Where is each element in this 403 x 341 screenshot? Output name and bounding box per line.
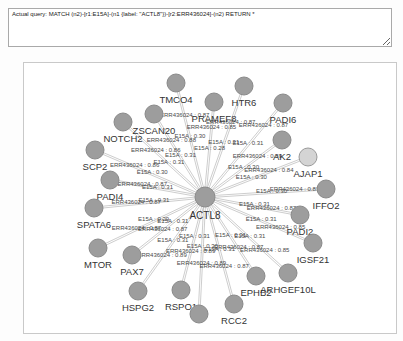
graph-node[interactable]	[205, 93, 223, 111]
edge-label-err436024: ERR436024 : 0.87	[138, 226, 188, 232]
graph-node[interactable]	[167, 74, 185, 92]
graph-node-label: HTR6	[232, 97, 257, 108]
graph-node[interactable]	[172, 281, 190, 299]
graph-node-highlighted[interactable]	[299, 148, 317, 166]
edge-label-err436024: ERR436024 : 0.85	[187, 124, 237, 130]
graph-center-label: ACTL8	[189, 210, 221, 221]
network-graph: E15A : 0.30ERR436024 : 0.87E15A : 0.31ER…	[24, 63, 396, 333]
graph-node-label: AK2	[273, 151, 291, 162]
graph-node[interactable]	[129, 282, 147, 300]
graph-edge	[98, 198, 205, 249]
edge-label-err436024: ERR436024 : 0.84	[244, 167, 294, 173]
graph-node-label: SCP2	[83, 161, 108, 172]
edge-label-e15a: E15A : 0.31	[246, 216, 278, 222]
edge-label-e15a: E15A : 0.31	[234, 233, 266, 239]
edge-label-e15a: E15A : 0.28	[194, 145, 226, 151]
graph-node[interactable]	[225, 295, 243, 313]
edge-label-e15a: E15A : 0.31	[232, 140, 264, 146]
graph-node[interactable]	[247, 267, 265, 285]
graph-node-label: AJAP1	[293, 168, 322, 179]
edge-label-e15a: E15A : 0.31	[157, 218, 189, 224]
graph-node[interactable]	[317, 180, 335, 198]
edge-label-e15a: E15A : 0.31	[179, 233, 211, 239]
graph-node-label: TMCO4	[159, 94, 192, 105]
graph-node-label: ARHGEF10L	[260, 284, 315, 295]
edge-label-err436024: ERR436024 : 0.87	[247, 205, 297, 211]
edge-label-err436024: ERR436024 : 0.85	[240, 247, 290, 253]
graph-node[interactable]	[86, 141, 104, 159]
graph-node-label: IFFO2	[313, 200, 340, 211]
graph-node[interactable]	[279, 264, 297, 282]
graph-node-label: PAX7	[120, 266, 144, 277]
graph-node[interactable]	[123, 246, 141, 264]
graph-node[interactable]	[145, 105, 163, 123]
graph-node[interactable]	[304, 234, 322, 252]
graph-node-label: MTOR	[84, 259, 112, 270]
edge-label-err436024: ERR436024 : 0.86	[110, 162, 160, 168]
edge-label-err436024: ERR436024 : 0.87	[118, 181, 168, 187]
graph-node[interactable]	[291, 206, 309, 224]
graph-node-label: PADI6	[270, 114, 297, 125]
graph-node-center[interactable]	[195, 187, 215, 207]
edge-label-err436024: ERR436024 : 0.89	[177, 260, 227, 266]
graph-node[interactable]	[274, 94, 292, 112]
graph-node-label: PADI4	[97, 191, 124, 202]
graph-node[interactable]	[190, 305, 208, 323]
graph-node[interactable]	[101, 171, 119, 189]
graph-panel: E15A : 0.30ERR436024 : 0.87E15A : 0.31ER…	[23, 62, 397, 334]
query-input[interactable]: Actual query: MATCH (n2)-[r1:E15A]-(n1 {…	[8, 8, 392, 47]
graph-node[interactable]	[85, 199, 103, 217]
graph-node-label: HSPG2	[122, 302, 154, 313]
graph-node-label: RCC2	[221, 315, 247, 326]
edge-label-err436024: ERR436024 : 0.86	[131, 147, 181, 153]
graph-node-label: IGSF21	[297, 254, 330, 265]
edge-label-e15a: E15A : 0.30	[187, 243, 219, 249]
edge-label-e15a: E15A : 0.30	[236, 174, 268, 180]
graph-node-label: PRAMEF8	[192, 113, 237, 124]
graph-node[interactable]	[235, 77, 253, 95]
edge-label-err436024: ERR436024 : 0.88	[147, 137, 197, 143]
edge-label-err436024: ERR436024 : 0.87	[270, 186, 320, 192]
graph-node[interactable]	[89, 239, 107, 257]
edge-label-e15a: E15A : 0.31	[165, 152, 197, 158]
graph-node-label: SPATA6	[77, 219, 111, 230]
graph-node-label: NOTCH2	[103, 133, 142, 144]
edge-label-e15a: E15A : 0.30	[137, 169, 169, 175]
graph-node[interactable]	[273, 131, 291, 149]
graph-node[interactable]	[114, 113, 132, 131]
